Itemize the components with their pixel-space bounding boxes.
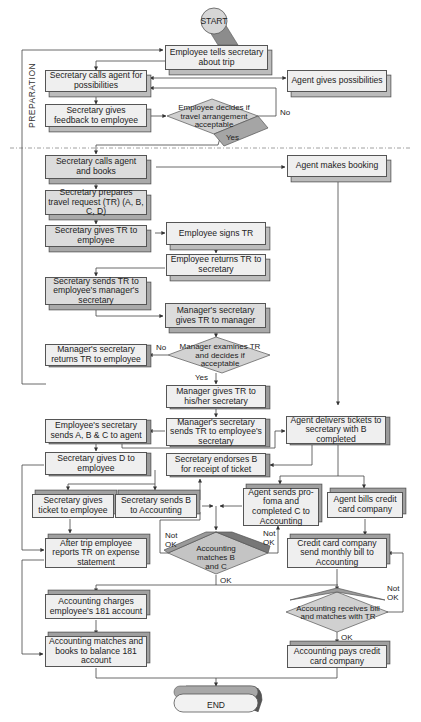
edge-label-d1-no: No [280, 108, 290, 117]
node-after-trip-report: After trip employee reports TR on expens… [45, 538, 147, 568]
node-employee-returns-tr: Employee returns TR to secretary [166, 254, 266, 276]
node-credit-card-monthly-bill: Credit card company send monthly bill to… [287, 538, 387, 568]
node-label: Agent sends pro-foma and completed C to … [244, 488, 318, 526]
node-label: Agent gives possibilities [289, 76, 384, 86]
decision-accounting-receives-bill: Accounting receives bill and matches wit… [292, 598, 384, 628]
start-label: START [200, 16, 228, 26]
node-label: Secretary sends B to Accounting [116, 496, 196, 515]
node-label: Secretary prepares travel request (TR) (… [46, 188, 146, 217]
node-accounting-pays-credit-card: Accounting pays credit card company [287, 645, 387, 668]
decision-label: Manager examines TR and decides if accep… [174, 343, 266, 369]
decision-label: Accounting receives bill and matches wit… [292, 605, 384, 622]
node-secretary-sends-tr: Secretary sends TR to employee's manager… [45, 277, 147, 305]
node-label: Employee returns TR to secretary [167, 255, 265, 274]
decision-manager-examines: Manager examines TR and decides if accep… [174, 340, 266, 372]
node-label: Employee signs TR [177, 229, 255, 239]
node-agent-sends-proforma: Agent sends pro-foma and completed C to … [243, 488, 319, 526]
node-label: Credit card company send monthly bill to… [288, 539, 386, 568]
node-manager-gives-tr: Manager gives TR to his/her secretary [166, 385, 266, 408]
node-managers-secretary-sends-tr: Manager's secretary sends TR to employee… [166, 418, 266, 446]
edge-label-d4-not-ok: Not OK [387, 584, 399, 602]
node-label: Accounting matches and books to balance … [46, 637, 146, 666]
node-secretary-gives-feedback: Secretary gives feedback to employee [45, 104, 147, 127]
node-managers-secretary-returns-tr: Manager's secretary returns TR to employ… [45, 344, 147, 366]
node-secretary-sends-b: Secretary sends B to Accounting [115, 494, 197, 518]
edge-label-d2-no: No [156, 343, 166, 352]
node-employee-tells-secretary: Employee tells secretary about trip [165, 45, 268, 70]
edge-label-d3-not-ok-left: Not OK [165, 531, 177, 549]
node-label: Secretary gives TR to employee [46, 226, 146, 245]
node-employees-secretary-sends-abc: Employee's secretary sends A, B & C to a… [45, 419, 147, 443]
node-label: Accounting pays credit card company [288, 647, 386, 666]
edge-label-d4-ok: OK [341, 633, 353, 642]
node-agent-delivers-tickets: Agent delivers tickets to secretary with… [286, 416, 386, 444]
node-label: Agent makes booking [294, 161, 381, 171]
node-managers-secretary-gives-tr: Manager's secretary gives TR to manager [165, 303, 266, 328]
node-accounting-charges-181: Accounting charges employee's 181 accoun… [45, 594, 147, 619]
node-label: Secretary endorses B for receipt of tick… [167, 455, 265, 474]
decision-accounting-matches-bc: Accounting matches B and C [190, 541, 242, 573]
node-label: After trip employee reports TR on expens… [46, 539, 146, 568]
edge-label-d2-yes: Yes [195, 373, 208, 382]
decision-label: Accounting matches B and C [190, 544, 242, 571]
node-label: Manager's secretary sends TR to employee… [167, 418, 265, 447]
node-label: Employee's secretary sends A, B & C to a… [46, 421, 146, 440]
node-agent-bills-credit-card: Agent bills credit card company [327, 492, 403, 518]
node-label: Manager's secretary gives TR to manager [166, 306, 265, 325]
node-label: Accounting charges employee's 181 accoun… [46, 597, 146, 616]
node-label: Manager gives TR to his/her secretary [167, 387, 265, 406]
node-label: Employee tells secretary about trip [166, 48, 267, 67]
decision-employee-decides: Employee decides if travel arrangement a… [168, 102, 260, 132]
node-label: Secretary calls agent and books [46, 157, 146, 176]
node-label: Secretary gives ticket to employee [33, 496, 113, 515]
phase-label-preparation: PREPARATION [27, 63, 37, 128]
node-agent-gives-possibilities: Agent gives possibilities [287, 70, 387, 92]
edge-label-d3-ok: OK [220, 576, 232, 585]
node-secretary-calls-and-books: Secretary calls agent and books [45, 155, 147, 179]
node-label: Secretary gives D to employee [46, 454, 146, 473]
node-label: Agent bills credit card company [328, 495, 402, 514]
node-secretary-calls-agent-possibilities: Secretary calls agent for possibilities [45, 70, 147, 92]
node-secretary-gives-ticket: Secretary gives ticket to employee [32, 494, 114, 518]
node-label: Manager's secretary returns TR to employ… [46, 345, 146, 364]
node-label: Secretary gives feedback to employee [46, 106, 146, 125]
edge-label-d1-yes: Yes [226, 133, 239, 142]
node-employee-signs-tr: Employee signs TR [166, 222, 266, 245]
decision-label: Employee decides if travel arrangement a… [168, 104, 260, 130]
node-agent-makes-booking: Agent makes booking [287, 155, 387, 177]
edge-label-d3-not-ok-right: Not OK [263, 529, 275, 547]
end-label: END [198, 700, 234, 710]
node-label: Agent delivers tickets to secretary with… [287, 416, 385, 445]
flowchart-canvas: START END PREPARATION .b3{background:#ef… [0, 0, 421, 722]
node-secretary-endorses-b: Secretary endorses B for receipt of tick… [166, 453, 266, 476]
start-terminal [201, 8, 238, 45]
node-label: Secretary sends TR to employee's manager… [46, 277, 146, 306]
node-secretary-gives-tr: Secretary gives TR to employee [45, 225, 147, 247]
node-secretary-prepares-tr: Secretary prepares travel request (TR) (… [45, 190, 147, 215]
node-accounting-balances-181: Accounting matches and books to balance … [45, 636, 147, 667]
node-label: Secretary calls agent for possibilities [46, 71, 146, 90]
node-secretary-gives-d: Secretary gives D to employee [45, 452, 147, 475]
